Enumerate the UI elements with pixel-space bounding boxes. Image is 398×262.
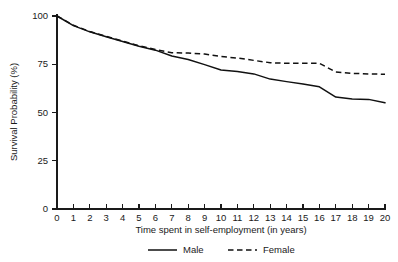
y-axis: 0255075100 [32, 10, 57, 214]
x-tick-label: 14 [281, 212, 292, 223]
x-tick-label: 15 [298, 212, 309, 223]
x-tick-label: 5 [136, 212, 141, 223]
x-tick-label: 2 [87, 212, 92, 223]
x-tick-label: 13 [265, 212, 276, 223]
x-tick-label: 12 [249, 212, 260, 223]
y-tick-label: 25 [37, 155, 48, 166]
x-tick-label: 3 [104, 212, 109, 223]
x-tick-label: 20 [380, 212, 391, 223]
y-tick-label: 50 [37, 107, 48, 118]
x-tick-label: 16 [314, 212, 325, 223]
x-tick-label: 11 [232, 212, 242, 223]
series-line-female [57, 16, 385, 74]
x-tick-label: 17 [331, 212, 342, 223]
plot-series [57, 16, 385, 103]
x-tick-label: 18 [347, 212, 358, 223]
x-tick-label: 7 [169, 212, 174, 223]
legend-label-female: Female [263, 244, 295, 255]
x-tick-label: 19 [363, 212, 374, 223]
y-tick-label: 100 [32, 10, 48, 21]
x-tick-label: 0 [54, 212, 59, 223]
x-tick-label: 1 [71, 212, 76, 223]
x-tick-label: 4 [120, 212, 125, 223]
x-tick-label: 6 [153, 212, 158, 223]
x-tick-label: 9 [202, 212, 207, 223]
x-tick-label: 10 [216, 212, 227, 223]
y-axis-title: Survival Probability (%) [8, 63, 19, 161]
y-tick-label: 75 [37, 58, 48, 69]
legend-label-male: Male [183, 244, 204, 255]
x-tick-label: 8 [186, 212, 191, 223]
chart-legend: Male Female [148, 244, 295, 255]
x-axis: 01234567891011121314151617181920 [54, 204, 390, 223]
y-tick-label: 0 [43, 203, 48, 214]
x-axis-title: Time spent in self-employment (in years) [135, 224, 306, 235]
series-line-male [57, 16, 385, 103]
survival-curve-chart: 0255075100 01234567891011121314151617181… [0, 0, 398, 262]
